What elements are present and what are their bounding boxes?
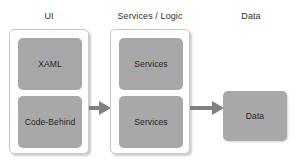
column-header-services: Services / Logic xyxy=(104,11,196,21)
column-header-ui: UI xyxy=(8,11,90,21)
block-code-behind: Code-Behind xyxy=(18,96,82,148)
block-data: Data xyxy=(223,91,287,141)
block-xaml: XAML xyxy=(18,38,82,90)
arrow-services-to-data xyxy=(190,99,224,117)
block-services-top: Services xyxy=(119,38,183,90)
architecture-diagram: UI Services / Logic Data XAML Code-Behin… xyxy=(0,0,295,161)
container-services: Services Services xyxy=(110,29,190,154)
block-services-bottom: Services xyxy=(119,96,183,148)
arrow-ui-to-services xyxy=(89,99,111,117)
column-header-data: Data xyxy=(215,11,287,21)
container-ui: XAML Code-Behind xyxy=(9,29,89,154)
